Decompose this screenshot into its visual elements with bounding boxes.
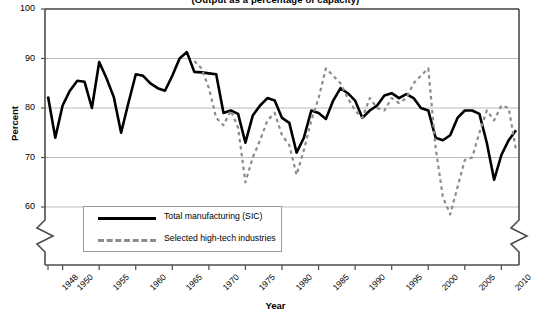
legend-label-hightech: Selected high-tech industries (164, 233, 276, 243)
legend-label-manufacturing: Total manufacturing (SIC) (164, 211, 263, 221)
series-manufacturing (48, 52, 516, 180)
legend-item-hightech: Selected high-tech industries (84, 229, 281, 251)
legend: Total manufacturing (SIC) Selected high-… (83, 206, 282, 252)
legend-swatch-dashed (98, 239, 156, 242)
chart-root: (Output as a percentage of capacity) Per… (0, 0, 551, 319)
series-hightech (194, 61, 516, 214)
legend-item-manufacturing: Total manufacturing (SIC) (84, 207, 281, 229)
legend-swatch-solid (98, 217, 156, 220)
plot-area (0, 0, 551, 319)
